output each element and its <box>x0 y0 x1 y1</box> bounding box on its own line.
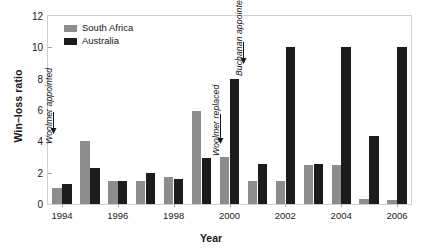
x-axis-tick-mark <box>174 204 175 207</box>
y-axis-tick-label: 8 <box>17 73 43 84</box>
bar-south-africa-2001 <box>248 181 257 204</box>
annotation-buchanan-appointed: Buchanan appointed <box>234 0 244 76</box>
y-axis-tick-mark <box>48 47 52 48</box>
y-axis-tick-label: 12 <box>17 11 43 22</box>
legend-swatch-icon <box>64 25 77 32</box>
x-axis-tick-mark <box>285 204 286 207</box>
bar-australia-2005 <box>369 136 378 204</box>
bar-group <box>383 16 411 204</box>
annotation-arrow-down-icon <box>240 42 247 64</box>
bar-australia-2006 <box>397 47 406 204</box>
bar-south-africa-1994 <box>52 188 61 204</box>
y-axis-tick-label: 0 <box>17 199 43 210</box>
bar-group <box>132 16 160 204</box>
bar-south-africa-1999 <box>192 111 201 204</box>
bar-south-africa-2004 <box>332 165 341 204</box>
bar-group <box>299 16 327 204</box>
x-axis-tick-mark <box>62 204 63 207</box>
legend-item-australia: Australia <box>64 35 133 47</box>
bar-south-africa-1998 <box>164 177 173 204</box>
y-axis-tick-label: 6 <box>17 105 43 116</box>
legend-label: South Africa <box>82 23 133 33</box>
bar-south-africa-1996 <box>108 181 117 205</box>
bar-group <box>243 16 271 204</box>
x-axis-tick-label: 1998 <box>163 210 184 221</box>
x-axis-title: Year <box>0 232 422 244</box>
bar-australia-1996 <box>118 181 127 205</box>
bar-australia-2004 <box>341 47 350 204</box>
x-axis-tick-label: 1996 <box>107 210 128 221</box>
bar-group <box>327 16 355 204</box>
bar-group <box>355 16 383 204</box>
chart-title <box>150 0 350 5</box>
bar-australia-1999 <box>202 158 211 204</box>
bar-south-africa-2006 <box>387 200 396 204</box>
y-axis-tick-mark <box>48 173 52 174</box>
x-axis-tick-label: 2000 <box>219 210 240 221</box>
figure: Win–loss ratio Woolmer appointedWoolmer … <box>0 0 422 251</box>
x-axis-tick-label: 2006 <box>386 210 407 221</box>
bar-australia-2003 <box>314 164 323 204</box>
y-axis-tick-mark <box>48 79 52 80</box>
bar-australia-1994 <box>62 184 71 204</box>
x-axis-tick-label: 2002 <box>275 210 296 221</box>
bar-group <box>271 16 299 204</box>
x-axis-tick-label: 1994 <box>51 210 72 221</box>
bar-australia-1998 <box>174 179 183 204</box>
x-axis-tick-label: 2004 <box>331 210 352 221</box>
y-axis-tick-label: 10 <box>17 42 43 53</box>
annotation-arrow-down-icon <box>50 112 57 134</box>
bar-south-africa-2002 <box>276 181 285 204</box>
y-axis-tick-mark <box>48 110 52 111</box>
bar-south-africa-2003 <box>304 165 313 204</box>
bar-australia-2001 <box>258 164 267 204</box>
bar-australia-2000 <box>230 79 239 204</box>
chart-legend: South Africa Australia <box>64 22 133 48</box>
x-axis-tick-mark <box>397 204 398 207</box>
annotation-arrow-down-icon <box>217 114 224 144</box>
bar-south-africa-1995 <box>80 141 89 204</box>
legend-swatch-icon <box>64 38 77 45</box>
x-axis-tick-mark <box>230 204 231 207</box>
bar-australia-1997 <box>146 173 155 204</box>
x-axis-tick-mark <box>118 204 119 207</box>
bar-australia-2002 <box>286 47 295 204</box>
plot-area: Woolmer appointedWoolmer replacedBuchana… <box>47 15 412 205</box>
bar-south-africa-1997 <box>136 181 145 204</box>
y-axis-tick-label: 2 <box>17 167 43 178</box>
legend-item-south-africa: South Africa <box>64 22 133 34</box>
bar-group <box>160 16 188 204</box>
bar-south-africa-2000 <box>220 157 229 204</box>
x-axis-tick-mark <box>341 204 342 207</box>
bar-australia-1995 <box>90 168 99 204</box>
legend-label: Australia <box>82 36 119 46</box>
y-axis-tick-label: 4 <box>17 136 43 147</box>
bar-south-africa-2005 <box>359 199 368 204</box>
y-axis-tick-mark <box>48 141 52 142</box>
